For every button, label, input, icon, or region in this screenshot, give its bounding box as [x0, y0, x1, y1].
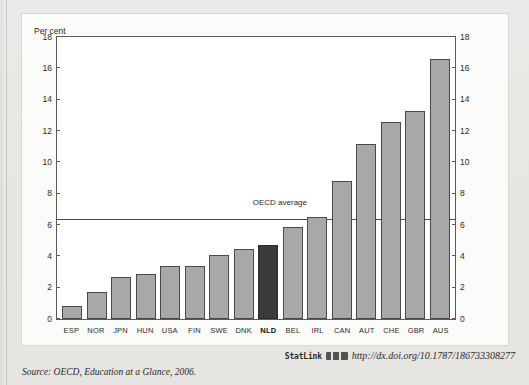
y-axis-label-left: 0 — [47, 315, 52, 324]
bar-slot — [354, 37, 379, 319]
y-axis-label-left: 8 — [47, 189, 52, 198]
bar-jpn[interactable] — [111, 277, 131, 319]
y-axis-label-left: 12 — [43, 127, 52, 136]
x-label-usa: USA — [158, 326, 183, 335]
bar-irl[interactable] — [307, 217, 327, 319]
x-label-che: CHE — [379, 326, 404, 335]
bar-slot — [403, 37, 428, 319]
bar-slot — [281, 37, 306, 319]
y-axis-label-left: 6 — [47, 221, 52, 230]
bar-che[interactable] — [381, 122, 401, 319]
y-axis-label-right: 12 — [460, 127, 469, 136]
bar-hun[interactable] — [136, 274, 156, 319]
bar-slot — [207, 37, 232, 319]
y-axis-label-left: 2 — [47, 283, 52, 292]
x-label-nld: NLD — [256, 326, 281, 335]
bar-slot — [379, 37, 404, 319]
x-label-aut: AUT — [355, 326, 380, 335]
x-label-aus: AUS — [428, 326, 453, 335]
bar-aus[interactable] — [430, 59, 450, 319]
statlink-url[interactable]: http://dx.doi.org/10.1787/186733308277 — [352, 350, 515, 361]
y-axis-label-right: 4 — [460, 252, 465, 261]
statlink-row: StatLinkhttp://dx.doi.org/10.1787/186733… — [0, 350, 515, 361]
bar-slot — [109, 37, 134, 319]
running-title — [0, 0, 529, 6]
bar-slot — [183, 37, 208, 319]
bar-nor[interactable] — [87, 292, 107, 319]
x-label-gbr: GBR — [404, 326, 429, 335]
bar-can[interactable] — [332, 181, 352, 319]
bar-usa[interactable] — [160, 266, 180, 319]
bar-dnk[interactable] — [234, 249, 254, 319]
y-axis-label-right: 10 — [460, 158, 469, 167]
bar-slot — [330, 37, 355, 319]
bar-fin[interactable] — [185, 266, 205, 319]
bar-slot — [428, 37, 453, 319]
x-label-can: CAN — [330, 326, 355, 335]
x-label-bel: BEL — [281, 326, 306, 335]
bar-slot — [158, 37, 183, 319]
y-axis-label-right: 6 — [460, 221, 465, 230]
x-axis-labels: ESPNORJPNHUNUSAFINSWEDNKNLDBELIRLCANAUTC… — [56, 326, 456, 335]
y-axis-label-right: 18 — [460, 33, 469, 42]
x-label-nor: NOR — [84, 326, 109, 335]
bar-slot — [134, 37, 159, 319]
bar-esp[interactable] — [62, 306, 82, 319]
plot-area: 002244668810101212141416161818 OECD aver… — [56, 36, 456, 320]
y-axis-label-right: 16 — [460, 64, 469, 73]
y-axis-label-right: 14 — [460, 95, 469, 104]
statlink-barcode-icon — [326, 352, 348, 360]
bar-gbr[interactable] — [405, 111, 425, 319]
y-axis-label-left: 16 — [43, 64, 52, 73]
bar-nld[interactable] — [258, 245, 278, 319]
y-axis-label-left: 14 — [43, 95, 52, 104]
x-label-fin: FIN — [182, 326, 207, 335]
bar-slot — [85, 37, 110, 319]
bar-slot — [232, 37, 257, 319]
x-label-swe: SWE — [207, 326, 232, 335]
y-axis-label-right: 2 — [460, 283, 465, 292]
x-label-hun: HUN — [133, 326, 158, 335]
bar-aut[interactable] — [356, 144, 376, 319]
y-axis-label-left: 10 — [43, 158, 52, 167]
bar-slot — [60, 37, 85, 319]
y-axis-label-right: 0 — [460, 315, 465, 324]
bar-series — [57, 37, 455, 319]
bar-slot — [256, 37, 281, 319]
scanned-page: Per cent 002244668810101212141416161818 … — [0, 0, 529, 385]
bar-swe[interactable] — [209, 255, 229, 319]
x-label-jpn: JPN — [108, 326, 133, 335]
bar-slot — [305, 37, 330, 319]
bar-bel[interactable] — [283, 227, 303, 319]
y-axis-label-right: 8 — [460, 189, 465, 198]
x-label-esp: ESP — [59, 326, 84, 335]
x-label-irl: IRL — [305, 326, 330, 335]
figure-panel: Per cent 002244668810101212141416161818 … — [22, 14, 508, 345]
y-axis-label-left: 18 — [43, 33, 52, 42]
x-label-dnk: DNK — [231, 326, 256, 335]
y-axis-label-left: 4 — [47, 252, 52, 261]
source-line: Source: OECD, Education at a Glance, 200… — [22, 367, 196, 377]
statlink-label: StatLink — [285, 352, 322, 361]
